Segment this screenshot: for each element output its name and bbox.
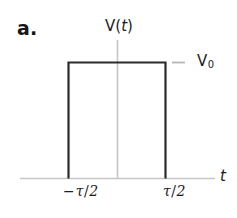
x-axis-label: t bbox=[220, 169, 226, 184]
tick-right-denominator: 2 bbox=[176, 183, 185, 199]
y-axis-label: V(t) bbox=[105, 19, 133, 34]
panel-label: a. bbox=[17, 19, 37, 38]
tick-left-denominator: 2 bbox=[89, 183, 98, 199]
amplitude-symbol: V bbox=[197, 52, 207, 70]
x-tick-label-right: τ/2 bbox=[163, 184, 185, 198]
rectangular-pulse-figure: a. V(t) V0 −τ/2 τ/2 t bbox=[0, 0, 237, 218]
x-tick-label-left: −τ/2 bbox=[63, 184, 98, 198]
amplitude-subscript: 0 bbox=[208, 59, 214, 70]
tick-right-tau: τ bbox=[163, 183, 171, 199]
tick-left-minus-sign: − bbox=[63, 183, 75, 199]
y-axis-label-prefix: V( bbox=[105, 17, 121, 35]
amplitude-label: V0 bbox=[197, 54, 214, 70]
y-axis-label-suffix: ) bbox=[127, 17, 133, 35]
